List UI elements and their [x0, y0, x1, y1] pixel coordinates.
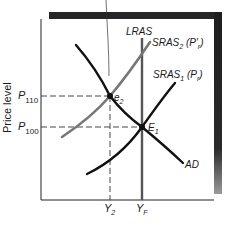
e1-point	[139, 124, 145, 130]
as-ad-diagram: LRAS SRAS2 (P′r) SRAS1 (Pr) AD e2 E1 P11…	[0, 0, 232, 227]
y2-label: Y2	[104, 202, 115, 216]
shadow-right	[214, 12, 222, 194]
ad-label: AD	[184, 159, 199, 170]
shadow-top	[49, 12, 222, 20]
y-axis-title: Price level	[1, 82, 13, 133]
e2-point	[107, 93, 113, 99]
yf-label: YF	[136, 202, 148, 216]
p110-label: P110	[18, 89, 39, 105]
lras-label: LRAS	[126, 26, 152, 37]
p100-label: P100	[18, 120, 39, 136]
